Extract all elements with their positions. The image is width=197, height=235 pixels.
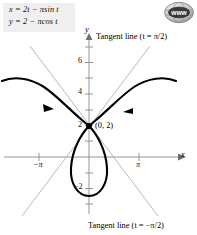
equation-y: y = 2 − πcos t (9, 17, 58, 26)
point-marker-0-2 (86, 123, 92, 129)
y-axis-arrowhead (86, 33, 93, 40)
curve-right-branch (89, 78, 176, 126)
www-badge-text: www (170, 9, 187, 16)
tangent-lines-group (22, 46, 158, 216)
x-axis-label: x (181, 150, 185, 159)
point-label-0-2: (0, 2) (95, 121, 113, 130)
y-axis-label: y (85, 25, 89, 34)
y-tick-label-4: 4 (78, 87, 82, 96)
x-tick-label-minus-pi: −π (33, 160, 43, 169)
parametric-curve-figure: x = 2t − πsin t y = 2 − πcos t y x 6 4 2… (0, 0, 197, 235)
y-tick-label-6: 6 (78, 56, 82, 65)
tangent-label-t-minus-pi-over-2: Tangent line (t = −π/2) (88, 221, 164, 230)
equation-x: x = 2t − πsin t (9, 5, 59, 14)
direction-arrow-right-branch (123, 108, 133, 114)
curve-left-branch (2, 78, 89, 126)
x-tick-label-pi: π (136, 160, 140, 169)
tangent-line-t-pi-over-2 (22, 46, 150, 216)
y-tick-label-minus-2: −2 (74, 182, 83, 191)
y-tick-label-2: 2 (78, 120, 82, 129)
tangent-label-t-pi-over-2: Tangent line (t = π/2) (96, 32, 167, 41)
www-globe-icon[interactable]: www (163, 1, 195, 24)
direction-arrow-left-branch (43, 104, 54, 112)
